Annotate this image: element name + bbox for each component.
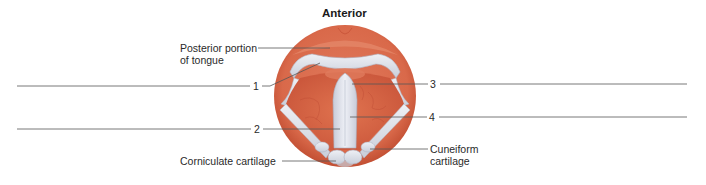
callout-number-2: 2 (254, 123, 260, 135)
larynx-diagram: Anterior Posterior portion of tongue 1 2… (0, 0, 706, 185)
cuneiform-cartilage-right (361, 142, 375, 152)
label-posterior-tongue-line2: of tongue (180, 54, 257, 66)
label-posterior-tongue-line1: Posterior portion (180, 42, 257, 54)
label-cuneiform-line1: Cuneiform (430, 143, 478, 155)
diagram-title: Anterior (322, 7, 367, 19)
label-posterior-tongue: Posterior portion of tongue (180, 42, 257, 66)
label-cuneiform-line2: cartilage (430, 155, 478, 167)
label-cuneiform-cartilage: Cuneiform cartilage (430, 143, 478, 167)
callout-number-1: 1 (253, 80, 259, 92)
cuneiform-cartilage-left (315, 142, 329, 152)
callout-number-4: 4 (429, 111, 435, 123)
label-corniculate-cartilage: Corniculate cartilage (180, 155, 276, 167)
larynx-illustration (0, 0, 706, 185)
callout-number-3: 3 (430, 78, 436, 90)
